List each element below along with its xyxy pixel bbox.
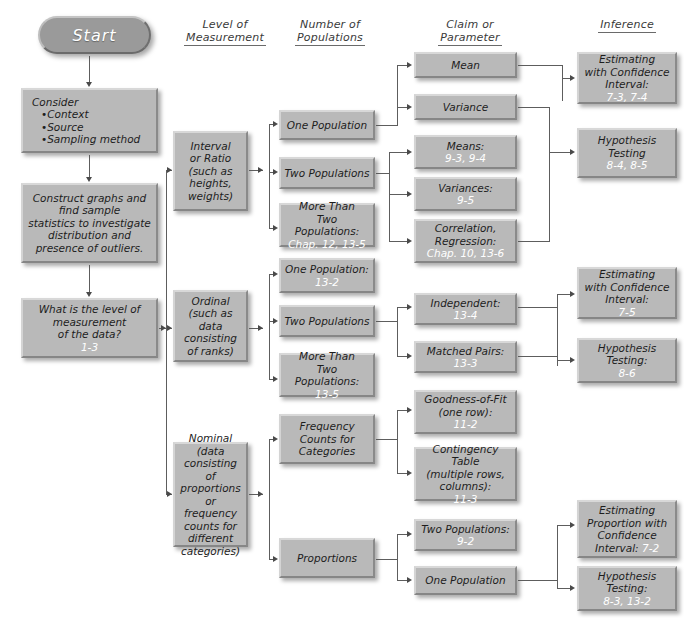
line: Independent: [419, 297, 512, 310]
node-goodness-of-fit[interactable]: Goodness-of-Fit (one row): 11-2 [414, 390, 517, 434]
start-label: Start [72, 26, 116, 45]
arrow-head [570, 149, 575, 155]
line: •Source [32, 121, 153, 134]
arrow-head [258, 491, 263, 497]
header-line2: Inference [598, 18, 656, 33]
arrow-head [407, 304, 412, 310]
node-construct-graphs[interactable]: Construct graphs and find sample statist… [21, 183, 158, 263]
arrow-head [407, 407, 412, 413]
arrow-head [273, 376, 278, 382]
arrow-head [167, 325, 172, 331]
node-one-population-ordinal[interactable]: One Population: 13-2 [279, 258, 375, 293]
node-more-than-two-populations-ordinal[interactable]: More Than Two Populations: 13-5 [279, 353, 375, 397]
line: Frequency [284, 420, 370, 433]
column-header-inference: Inference [572, 18, 682, 33]
node-consider[interactable]: Consider •Context •Source •Sampling meth… [21, 88, 158, 153]
section-reference: 1-3 [26, 341, 153, 354]
node-more-than-two-populations-interval[interactable]: More Than Two Populations: Chap. 12, 13-… [279, 203, 375, 247]
node-two-populations-proportions[interactable]: Two Populations: 9-2 [414, 519, 517, 551]
line: of ranks) [178, 345, 243, 358]
line: Ordinal [178, 295, 243, 308]
node-estimating-proportion-confidence-interval[interactable]: Estimating Proportion with Confidence In… [577, 500, 677, 558]
start-node[interactable]: Start [38, 16, 151, 54]
connector [389, 194, 409, 195]
line: Two Populations: [419, 523, 512, 536]
section-reference: 11-2 [419, 418, 512, 431]
column-header-level-of-measurement: Level of Measurement [170, 18, 280, 46]
arrow-head [407, 191, 412, 197]
node-level-question[interactable]: What is the level of measurement of the … [21, 298, 158, 358]
line: or frequency [178, 495, 243, 520]
section-reference: 13-3 [419, 357, 512, 370]
connector [397, 410, 398, 474]
line: Two Populations [284, 315, 370, 328]
line: or Ratio [178, 152, 243, 165]
section-reference: 8-6 [582, 367, 672, 380]
node-one-population-proportions[interactable]: One Population [414, 566, 517, 595]
node-estimating-confidence-interval-2[interactable]: Estimating with Confidence Interval: 7-5 [577, 267, 677, 319]
line: presence of outliers. [26, 242, 153, 255]
arrow-head [407, 62, 412, 68]
arrow-head [407, 104, 412, 110]
line: find sample [26, 204, 153, 217]
node-correlation-regression[interactable]: Correlation, Regression: Chap. 10, 13-6 [414, 219, 517, 263]
node-matched-pairs[interactable]: Matched Pairs: 13-3 [414, 341, 517, 373]
connector [89, 56, 90, 83]
section-reference: 9-5 [419, 194, 512, 207]
arrow-head [407, 531, 412, 537]
arrow-head [273, 556, 278, 562]
connector [562, 65, 563, 101]
section-reference: 13-2 [284, 276, 370, 289]
node-variances[interactable]: Variances: 9-5 [414, 177, 517, 211]
node-independent[interactable]: Independent: 13-4 [414, 293, 517, 325]
header-line1: Level of [170, 18, 280, 31]
line: Proportion with [582, 517, 672, 530]
line: Two Populations: [284, 213, 370, 238]
arrow-head [258, 325, 263, 331]
node-contingency-table[interactable]: Contingency Table (multiple rows, column… [414, 447, 517, 501]
connector [389, 152, 390, 242]
connector [89, 265, 90, 293]
node-proportions[interactable]: Proportions [279, 538, 375, 578]
arrow-head [407, 577, 412, 583]
line: Interval [178, 140, 243, 153]
node-frequency-counts-for-categories[interactable]: Frequency Counts for Categories [279, 414, 375, 464]
node-means[interactable]: Means: 9-3, 9-4 [414, 135, 517, 169]
arrow-head [86, 82, 92, 87]
connector [397, 65, 398, 126]
line: Categories [284, 445, 370, 458]
line: different [178, 532, 243, 545]
node-nominal[interactable]: Nominal (data consisting of proportions … [173, 442, 248, 547]
arrow-head [570, 357, 575, 363]
node-ordinal[interactable]: Ordinal (such as data consisting of rank… [173, 290, 248, 362]
section-reference: 7-5 [582, 306, 672, 319]
line: Interval: [582, 293, 672, 306]
line: with Confidence [582, 281, 672, 294]
node-hypothesis-testing-2[interactable]: Hypothesis Testing: 8-6 [577, 338, 677, 383]
line: One Population: [284, 263, 370, 276]
node-one-population-interval[interactable]: One Population [279, 110, 375, 140]
arrow-head [258, 167, 263, 173]
node-estimating-confidence-interval-1[interactable]: Estimating with Confidence Interval: 7-3… [577, 52, 677, 104]
line: distribution and [26, 229, 153, 242]
node-variance[interactable]: Variance [414, 94, 517, 120]
node-hypothesis-testing-1[interactable]: Hypothesis Testing 8-4, 8-5 [577, 128, 677, 178]
line: What is the level of [26, 303, 153, 316]
line: Nominal [178, 432, 243, 445]
line: Interval: [582, 78, 672, 91]
line: Proportions [284, 552, 370, 565]
arrow-head [273, 169, 278, 175]
node-two-populations-ordinal[interactable]: Two Populations [279, 305, 375, 337]
line: Correlation, [419, 222, 512, 235]
connector [389, 241, 409, 242]
line: Testing [582, 147, 672, 160]
node-hypothesis-testing-3[interactable]: Hypothesis Testing: 8-3, 13-2 [577, 566, 677, 611]
connector [557, 525, 558, 581]
line: •Context [32, 108, 153, 121]
node-interval-or-ratio[interactable]: Interval or Ratio (such as heights, weig… [173, 131, 248, 211]
line: Estimating [582, 504, 672, 517]
connector [376, 439, 398, 440]
node-mean[interactable]: Mean [414, 52, 517, 78]
node-two-populations-interval[interactable]: Two Populations [279, 157, 375, 189]
line: of the data? [26, 328, 153, 341]
